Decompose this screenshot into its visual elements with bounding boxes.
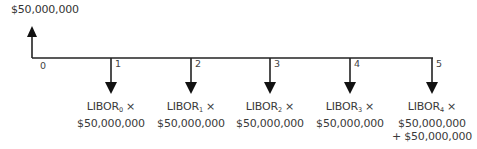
rate-name: LIBOR	[87, 100, 119, 113]
period-label-1: 1	[115, 58, 121, 69]
rate-name: LIBOR	[167, 100, 199, 113]
multiply-sign: ×	[444, 100, 456, 113]
period-label-0: 0	[40, 60, 46, 71]
rate-name: LIBOR	[326, 100, 358, 113]
outflow-label-5: LIBOR4 × $50,000,000 + $50,000,000	[377, 100, 477, 143]
period-label-2: 2	[195, 58, 201, 69]
period-label-3: 3	[274, 58, 280, 69]
inflow-amount-label: $50,000,000	[11, 3, 79, 16]
principal-repayment: + $50,000,000	[377, 130, 477, 143]
period-label-4: 4	[354, 58, 360, 69]
multiply-sign: ×	[282, 100, 294, 113]
multiply-sign: ×	[203, 100, 215, 113]
notional-amount: $50,000,000	[377, 117, 477, 130]
rate-name: LIBOR	[408, 100, 440, 113]
multiply-sign: ×	[362, 100, 374, 113]
period-label-5: 5	[436, 58, 442, 69]
inflow-arrow-up-icon	[27, 26, 37, 58]
multiply-sign: ×	[123, 100, 135, 113]
rate-name: LIBOR	[246, 100, 278, 113]
